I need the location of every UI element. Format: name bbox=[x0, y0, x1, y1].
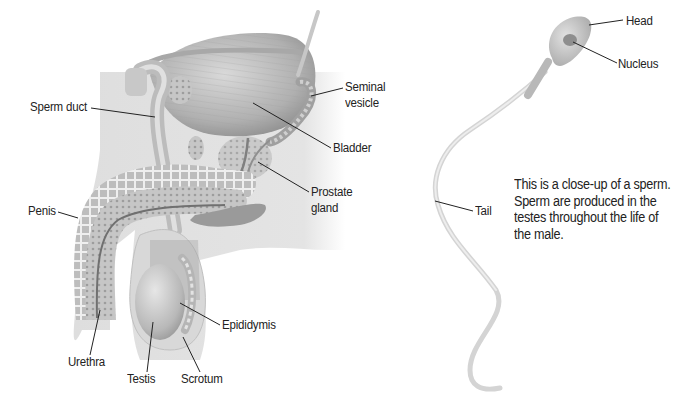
label-prostate-line2: gland bbox=[311, 201, 338, 216]
label-prostate-line1: Prostate bbox=[311, 185, 352, 200]
label-sperm-duct: Sperm duct bbox=[30, 100, 87, 115]
label-penis: Penis bbox=[28, 204, 56, 219]
caption-line-1: This is a close-up of a sperm. bbox=[514, 176, 685, 193]
pubic-bone-lower bbox=[188, 136, 204, 160]
label-epididymis: Epididymis bbox=[222, 318, 276, 333]
label-urethra: Urethra bbox=[68, 355, 105, 370]
sperm-caption: This is a close-up of a sperm. Sperm are… bbox=[514, 176, 685, 242]
label-scrotum: Scrotum bbox=[181, 372, 223, 387]
label-seminal-vesicle-line2: vesicle bbox=[345, 96, 379, 111]
scrotum-organ bbox=[130, 230, 206, 350]
caption-line-4: the male. bbox=[514, 226, 685, 243]
label-nucleus: Nucleus bbox=[618, 57, 658, 72]
label-bladder: Bladder bbox=[333, 141, 371, 156]
testis-organ bbox=[135, 264, 185, 340]
pubic-bone bbox=[168, 76, 192, 104]
label-testis: Testis bbox=[127, 372, 155, 387]
label-head: Head bbox=[626, 14, 653, 29]
sperm-nucleus bbox=[563, 34, 577, 46]
bladder-organ bbox=[150, 12, 318, 136]
label-tail: Tail bbox=[475, 204, 492, 219]
sperm-midpiece bbox=[528, 62, 548, 95]
anatomy-figure: Sperm duct Seminal vesicle Bladder Prost… bbox=[0, 0, 699, 401]
caption-line-2: Sperm are produced in the bbox=[514, 193, 685, 210]
caption-line-3: testes throughout the life of bbox=[514, 209, 685, 226]
label-seminal-vesicle-line1: Seminal bbox=[345, 80, 385, 95]
